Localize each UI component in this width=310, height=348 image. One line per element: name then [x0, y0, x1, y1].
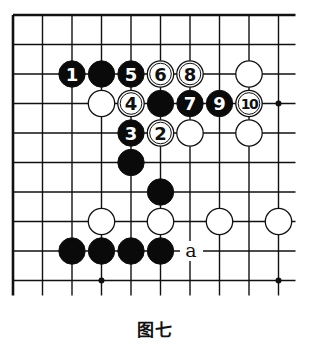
- black-stone: [147, 238, 173, 264]
- black-stone-7: 7: [177, 90, 203, 116]
- marker-label-a: a: [185, 239, 196, 261]
- black-stone-1: 1: [59, 61, 85, 87]
- figure-caption: 图七: [0, 316, 310, 341]
- stone-disc: [147, 208, 173, 234]
- star-point: [276, 278, 282, 284]
- white-stone: [177, 120, 203, 146]
- black-stone: [147, 179, 173, 205]
- stone-disc: [88, 238, 114, 264]
- stone-disc: [147, 90, 173, 116]
- white-stone-4: 4: [118, 90, 144, 116]
- black-stone: [88, 238, 114, 264]
- move-number-8: 8: [184, 64, 197, 85]
- move-number-3: 3: [125, 123, 138, 144]
- stone-disc: [88, 90, 114, 116]
- stone-disc: [236, 61, 262, 87]
- go-board: a 15684791032: [0, 0, 310, 305]
- move-number-5: 5: [125, 64, 138, 85]
- move-number-1: 1: [66, 64, 79, 85]
- white-stone: [88, 208, 114, 234]
- move-number-9: 9: [213, 93, 226, 114]
- stone-disc: [206, 208, 232, 234]
- stone-disc: [59, 238, 85, 264]
- move-number-4: 4: [125, 93, 138, 114]
- white-stone-8: 8: [177, 61, 203, 87]
- white-stone-10: 10: [236, 90, 262, 116]
- white-stone: [236, 61, 262, 87]
- star-point: [276, 101, 282, 107]
- move-number-7: 7: [184, 93, 197, 114]
- star-point: [99, 278, 105, 284]
- white-stone-2: 2: [147, 120, 173, 146]
- black-stone: [118, 149, 144, 175]
- black-stone: [59, 238, 85, 264]
- black-stone-9: 9: [206, 90, 232, 116]
- white-stone-6: 6: [147, 61, 173, 87]
- white-stone: [236, 120, 262, 146]
- move-number-6: 6: [154, 64, 167, 85]
- white-stone: [206, 208, 232, 234]
- stone-disc: [118, 238, 144, 264]
- stone-disc: [236, 120, 262, 146]
- stone-disc: [88, 208, 114, 234]
- move-number-10: 10: [241, 96, 259, 112]
- black-stone: [147, 90, 173, 116]
- go-board-diagram: a 15684791032: [0, 0, 310, 305]
- white-stone: [265, 208, 291, 234]
- stone-disc: [118, 149, 144, 175]
- black-stone: [118, 238, 144, 264]
- black-stone-3: 3: [118, 120, 144, 146]
- stone-disc: [265, 208, 291, 234]
- white-stone: [88, 90, 114, 116]
- stone-disc: [177, 120, 203, 146]
- stone-disc: [88, 61, 114, 87]
- black-stone-5: 5: [118, 61, 144, 87]
- stone-disc: [147, 179, 173, 205]
- white-stone: [147, 208, 173, 234]
- black-stone: [88, 61, 114, 87]
- move-number-2: 2: [154, 123, 167, 144]
- position-markers: a: [180, 239, 202, 261]
- stone-disc: [147, 238, 173, 264]
